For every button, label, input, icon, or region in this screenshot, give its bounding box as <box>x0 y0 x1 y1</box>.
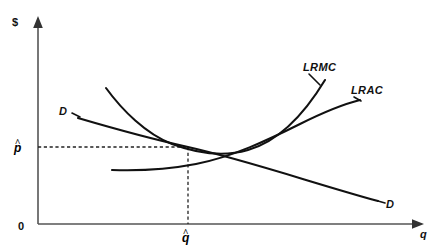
origin-label: 0 <box>18 221 24 232</box>
y-axis-arrowhead <box>33 16 43 28</box>
y-axis-label-dollar: $ <box>12 17 18 28</box>
demand-right-leader <box>378 201 385 203</box>
price-tick-symbol: p <box>14 142 21 154</box>
lrmc-curve-label: LRMC <box>303 62 336 73</box>
x-axis-label-quantity: q <box>420 229 427 240</box>
diagram-canvas <box>0 0 447 250</box>
price-tick-label: ^ p <box>14 138 21 154</box>
lrmc-curve <box>106 80 325 154</box>
natural-monopoly-figure: $ 0 q ^ p ^ q D D LRMC LRAC <box>0 0 447 250</box>
lrac-curve-label: LRAC <box>351 85 383 96</box>
demand-curve-label-right: D <box>386 199 394 210</box>
demand-left-leader <box>72 113 80 117</box>
demand-curve <box>78 118 378 201</box>
quantity-tick-label: ^ q <box>182 228 189 244</box>
y-axis <box>33 16 43 224</box>
x-axis <box>38 219 424 229</box>
lrmc-label-leader <box>309 74 320 85</box>
quantity-tick-symbol: q <box>182 232 189 244</box>
demand-curve-label-left: D <box>59 106 67 117</box>
